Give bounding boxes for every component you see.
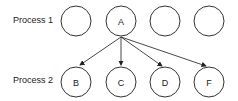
edge-a-b bbox=[80, 37, 121, 65]
node-b-label: B bbox=[73, 78, 79, 88]
edge-a-d bbox=[121, 37, 162, 66]
process-diagram: A B C D F bbox=[0, 0, 238, 101]
node-c-label: C bbox=[118, 78, 125, 88]
node-f-label: F bbox=[206, 78, 212, 88]
node-p1-1 bbox=[61, 6, 91, 36]
node-p1-4 bbox=[194, 6, 224, 36]
node-d-label: D bbox=[162, 78, 169, 88]
edges bbox=[80, 37, 206, 66]
edge-a-f bbox=[121, 37, 206, 66]
node-p1-3 bbox=[150, 6, 180, 36]
node-a-label: A bbox=[118, 17, 124, 27]
